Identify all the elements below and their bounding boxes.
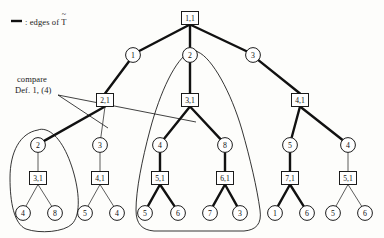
node-b31-box: 3,1 bbox=[182, 94, 199, 107]
node-label: 3 bbox=[251, 51, 255, 60]
node-label: 8 bbox=[53, 209, 57, 218]
node-label: 2 bbox=[188, 51, 192, 60]
node-d4-circle: 4 bbox=[153, 138, 168, 153]
node-d3-circle: 3 bbox=[93, 138, 108, 153]
node-e31-box: 3,1 bbox=[30, 172, 47, 185]
node-e61-box: 6,1 bbox=[217, 172, 234, 185]
node-f1-circle: 1 bbox=[268, 206, 283, 221]
legend-symbol-t: ~T bbox=[61, 17, 66, 27]
node-d4b-circle: 4 bbox=[341, 138, 356, 153]
legend-label: : edges of ~T bbox=[25, 17, 67, 27]
node-f5-circle: 5 bbox=[78, 206, 93, 221]
edge-e51b-f6c-thin bbox=[348, 185, 362, 207]
node-label: 5 bbox=[83, 209, 87, 218]
node-e71-box: 7,1 bbox=[282, 172, 299, 185]
edge-b31-d8-thick bbox=[190, 107, 220, 140]
edge-b21-d2-thick bbox=[44, 107, 105, 141]
annotation-line-1: compare bbox=[17, 74, 47, 84]
node-label: 4 bbox=[158, 141, 162, 150]
node-label: 2,1 bbox=[100, 96, 110, 105]
node-label: 6 bbox=[305, 209, 309, 218]
edge-b41-d4b-thick bbox=[300, 107, 343, 140]
node-f6b-circle: 6 bbox=[300, 206, 315, 221]
node-f3-circle: 3 bbox=[233, 206, 248, 221]
node-label: 7,1 bbox=[285, 174, 295, 183]
node-f5c-circle: 5 bbox=[326, 206, 341, 221]
node-label: 1 bbox=[273, 209, 277, 218]
node-label: 4,1 bbox=[95, 174, 105, 183]
edge-e31-f4-thin bbox=[26, 185, 38, 207]
edge-c1-b21-thick bbox=[105, 61, 129, 93]
node-f5b-circle: 5 bbox=[138, 206, 153, 221]
node-label: 4 bbox=[115, 209, 119, 218]
tree-nodes: 1,11232,13,14,12348543,14,15,16,17,15,14… bbox=[16, 12, 373, 221]
edge-e71-f1-thick bbox=[278, 185, 290, 207]
node-f4b-circle: 4 bbox=[110, 206, 125, 221]
node-d2-circle: 2 bbox=[31, 138, 46, 153]
annotation-line-2: Def. 1, (4) bbox=[15, 85, 52, 95]
edge-b41-d5-thick bbox=[292, 107, 300, 138]
node-f6-circle: 6 bbox=[171, 206, 186, 221]
node-label: 5,1 bbox=[343, 174, 353, 183]
node-label: 6,1 bbox=[220, 174, 230, 183]
edge-b31-d4-thick bbox=[164, 107, 190, 139]
edge-e51b-f5c-thin bbox=[336, 185, 348, 207]
node-label: 7 bbox=[208, 209, 212, 218]
edge-e41-f4b-thin bbox=[100, 185, 114, 207]
edge-e31-f8-thin bbox=[38, 185, 52, 207]
node-label: 5,1 bbox=[155, 174, 165, 183]
edge-e61-f3-thick bbox=[225, 185, 237, 207]
node-label: 4 bbox=[346, 141, 350, 150]
node-d8-circle: 8 bbox=[218, 138, 233, 153]
tree-figure: 1,11232,13,14,12348543,14,15,16,17,15,14… bbox=[0, 0, 384, 238]
legend-text: edges of bbox=[30, 17, 59, 27]
node-label: 2 bbox=[36, 141, 40, 150]
node-e51-box: 5,1 bbox=[152, 172, 169, 185]
node-f8-circle: 8 bbox=[48, 206, 63, 221]
node-label: 5 bbox=[331, 209, 335, 218]
edge-e51-f6-thick bbox=[160, 185, 175, 207]
edge-e61-f7-thick bbox=[213, 185, 225, 207]
node-c2-circle: 2 bbox=[183, 48, 198, 63]
node-d5-circle: 5 bbox=[283, 138, 298, 153]
edge-e51-f5b-thick bbox=[148, 185, 160, 207]
node-e51b-box: 5,1 bbox=[340, 172, 357, 185]
node-f6c-circle: 6 bbox=[358, 206, 373, 221]
edge-c3-b41-thick bbox=[258, 60, 300, 93]
edge-root-c1-thick bbox=[139, 25, 190, 51]
node-e41-box: 4,1 bbox=[92, 172, 109, 185]
edge-b21-d3-thin bbox=[101, 107, 105, 138]
node-label: 5 bbox=[288, 141, 292, 150]
node-label: 3,1 bbox=[33, 174, 43, 183]
node-c3-circle: 3 bbox=[246, 48, 261, 63]
node-label: 6 bbox=[176, 209, 180, 218]
legend-separator: : bbox=[25, 17, 27, 27]
node-label: 4,1 bbox=[295, 96, 305, 105]
node-b21-box: 2,1 bbox=[97, 94, 114, 107]
node-b41-box: 4,1 bbox=[292, 94, 309, 107]
node-label: 4 bbox=[21, 209, 25, 218]
node-label: 5 bbox=[143, 209, 147, 218]
node-root-box: 1,1 bbox=[182, 12, 199, 25]
node-label: 6 bbox=[363, 209, 367, 218]
node-f4-circle: 4 bbox=[16, 206, 31, 221]
node-label: 1 bbox=[131, 51, 135, 60]
node-c1-circle: 1 bbox=[126, 48, 141, 63]
edge-e41-f5-thin bbox=[88, 185, 100, 207]
edge-e71-f6b-thick bbox=[290, 185, 304, 207]
node-label: 3,1 bbox=[185, 96, 195, 105]
edge-root-c3-thick bbox=[190, 25, 247, 52]
tilde-accent: ~ bbox=[61, 11, 66, 19]
node-f7-circle: 7 bbox=[203, 206, 218, 221]
node-label: 1,1 bbox=[185, 14, 195, 23]
node-label: 3 bbox=[238, 209, 242, 218]
node-label: 3 bbox=[98, 141, 102, 150]
node-label: 8 bbox=[223, 141, 227, 150]
